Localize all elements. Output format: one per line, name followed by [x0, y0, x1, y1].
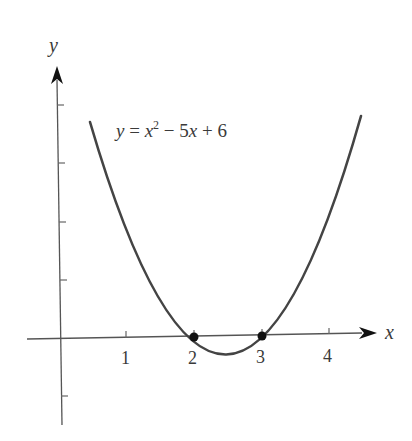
parabola-chart: 1 2 3 4 y x y = x2 − 5x + 6: [0, 0, 412, 441]
x-tick-label-2: 2: [188, 348, 197, 368]
root-point-3: [258, 332, 267, 341]
x-tick-label-4: 4: [323, 346, 332, 366]
root-point-2: [190, 333, 199, 342]
x-axis-label: x: [384, 321, 394, 343]
x-tick-label-3: 3: [256, 347, 265, 367]
x-tick-label-1: 1: [121, 348, 130, 368]
y-ticks: [57, 105, 68, 396]
y-axis-label: y: [47, 34, 58, 57]
parabola-curve: [90, 116, 361, 355]
y-axis: [57, 80, 62, 425]
equation-label: y = x2 − 5x + 6: [114, 118, 227, 141]
